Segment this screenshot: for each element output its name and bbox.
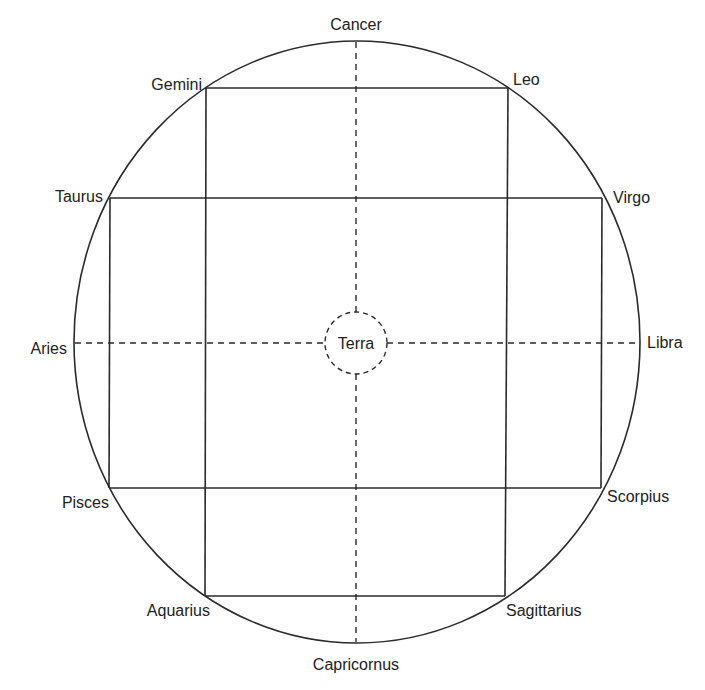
chord-leo-sagittarius bbox=[505, 88, 508, 596]
sign-label-sagittarius: Sagittarius bbox=[506, 602, 582, 619]
sign-label-scorpius: Scorpius bbox=[607, 488, 669, 505]
sign-label-capricornus: Capricornus bbox=[313, 656, 399, 673]
sign-label-taurus: Taurus bbox=[55, 188, 103, 205]
sign-label-virgo: Virgo bbox=[613, 189, 650, 206]
sign-label-leo: Leo bbox=[513, 71, 540, 88]
sign-label-gemini: Gemini bbox=[151, 76, 202, 93]
sign-label-libra: Libra bbox=[647, 334, 683, 351]
sign-label-aries: Aries bbox=[31, 340, 67, 357]
sign-label-cancer: Cancer bbox=[330, 16, 382, 33]
terra-label: Terra bbox=[338, 335, 375, 352]
zodiac-diagram: Terra Cancer Leo Virgo Libra Scorpius Sa… bbox=[0, 0, 705, 690]
chord-gemini-aquarius bbox=[205, 88, 206, 596]
sign-label-aquarius: Aquarius bbox=[147, 602, 210, 619]
sign-label-pisces: Pisces bbox=[62, 494, 109, 511]
